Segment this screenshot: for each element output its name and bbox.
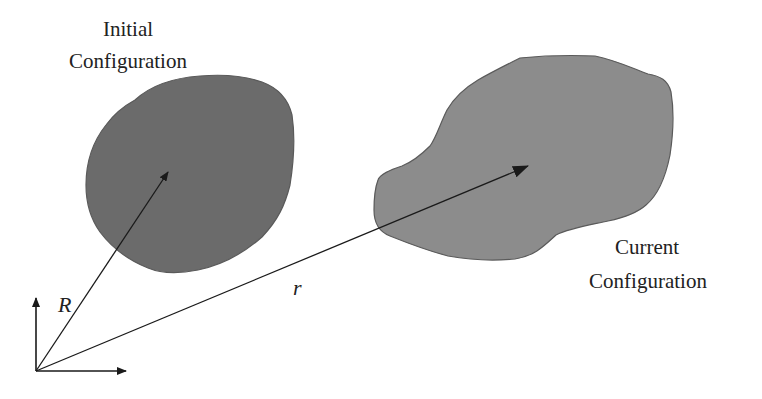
current-configuration-body [374, 56, 673, 260]
vector-label-r: r [293, 275, 302, 300]
configuration-diagram: Initial Configuration Current Configurat… [0, 0, 762, 399]
initial-configuration-body [86, 75, 294, 272]
initial-configuration-label-line1: Initial [103, 17, 153, 41]
initial-configuration-label-line2: Configuration [69, 49, 187, 73]
current-configuration-label-line1: Current [615, 235, 679, 259]
vector-label-R: R [57, 292, 72, 317]
diagram-canvas: Initial Configuration Current Configurat… [0, 0, 762, 399]
current-configuration-label-line2: Configuration [589, 269, 707, 293]
